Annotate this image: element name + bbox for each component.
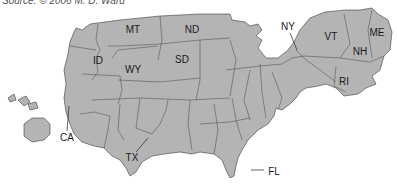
- island-small-3: [28, 102, 38, 110]
- label-nd: ND: [185, 24, 199, 35]
- island-hawaii: [24, 118, 50, 142]
- label-sd: SD: [175, 54, 189, 65]
- label-wy: WY: [125, 64, 141, 75]
- label-tx: TX: [126, 152, 139, 163]
- us-mainland: [64, 8, 392, 178]
- label-fl: FL: [268, 166, 280, 177]
- label-me: ME: [370, 27, 385, 38]
- label-mt: MT: [126, 24, 140, 35]
- island-small-1: [8, 94, 16, 102]
- label-ri: RI: [339, 76, 349, 87]
- label-id: ID: [93, 55, 103, 66]
- us-cartogram-map: MT ND ID WY SD NY VT NH ME RI CA TX FL: [0, 0, 397, 189]
- label-ny: NY: [281, 21, 295, 32]
- label-vt: VT: [325, 31, 338, 42]
- label-nh: NH: [353, 46, 367, 57]
- label-ca: CA: [60, 132, 74, 143]
